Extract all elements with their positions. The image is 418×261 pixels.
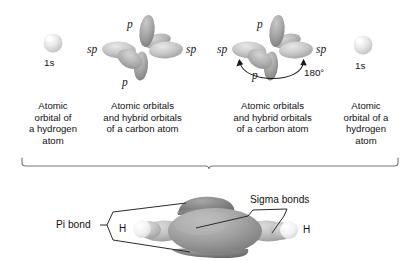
hydrogen-right-atom-label: H	[303, 224, 310, 235]
caption-carbon-right: Atomic orbitals and hybrid orbitals of a…	[220, 100, 325, 135]
carbon-right-p-bottom-label: p	[252, 69, 258, 81]
carbon-right-orbital-graphic	[231, 14, 313, 81]
hydrogen-right-orbital-label: 1s	[355, 60, 365, 71]
carbon-left-p-top-label: p	[127, 18, 133, 30]
sigma-bonds-label: Sigma bonds	[250, 194, 309, 205]
carbon-left-orbital-graphic	[101, 14, 183, 81]
hydrogen-right-sphere	[280, 221, 298, 239]
hydrogen-right-orbital-graphic	[354, 36, 373, 55]
orbital-hybridization-figure: 1s p p sp sp p p sp sp 180° 1s Atomic or…	[0, 0, 418, 261]
caption-hydrogen-left: Atomic orbital of a hydrogen atom	[12, 100, 94, 146]
hydrogen-left-orbital-label: 1s	[44, 57, 54, 68]
carbon-right-sp-left-label: sp	[217, 43, 227, 55]
pi-bond-label: Pi bond	[56, 219, 91, 230]
caption-hydrogen-right: Atomic orbital of a hydrogen atom	[325, 100, 407, 146]
carbon-left-sp-right-label: sp	[186, 43, 196, 55]
carbon-right-p-top-label: p	[257, 18, 263, 30]
bond-angle-label: 180°	[304, 67, 324, 78]
brace	[22, 158, 398, 169]
carbon-left-p-bottom-label: p	[122, 76, 128, 88]
carbon-left-sp-left-label: sp	[87, 43, 97, 55]
hydrogen-left-atom-label: H	[119, 223, 126, 234]
hydrogen-left-sphere	[133, 220, 151, 238]
hydrogen-left-orbital-graphic	[44, 34, 63, 53]
caption-carbon-left: Atomic orbitals and hybrid orbitals of a…	[90, 100, 195, 135]
carbon-right-sp-right-label: sp	[316, 43, 326, 55]
